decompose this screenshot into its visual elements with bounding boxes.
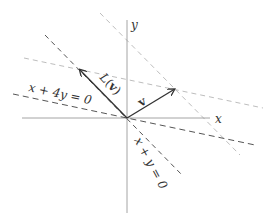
vector-v-label: v — [134, 93, 149, 110]
y-axis-label: y — [130, 18, 138, 32]
vector-v — [127, 90, 174, 119]
x-axis-label: x — [215, 112, 222, 126]
line-x-plus-4y-label: x + 4y = 0 — [27, 80, 93, 107]
line-x-plus-y-label: x + y = 0 — [131, 135, 170, 192]
linear-transformation-diagram: x y v L(v) x + 4y = 0 x + y = 0 — [0, 0, 277, 224]
vector-Lv-label: L(v) — [96, 70, 124, 98]
diagram-canvas: x y v L(v) x + 4y = 0 x + y = 0 — [0, 0, 277, 224]
